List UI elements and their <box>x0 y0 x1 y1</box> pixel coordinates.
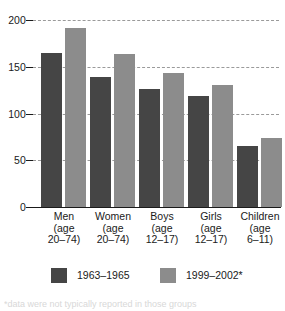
bar-children-1999-2002 <box>261 138 282 207</box>
bar-group-boys <box>139 20 185 207</box>
legend-label-1999-2002: 1999–2002* <box>186 270 243 281</box>
bar-group-girls <box>188 20 234 207</box>
category-label-children-line1: Children <box>229 211 285 223</box>
bar-group-children <box>237 20 283 207</box>
category-label-children-line3: 6–11) <box>229 234 285 246</box>
y-tick-label-200: 200 <box>0 15 26 26</box>
y-tick-label-150: 150 <box>0 62 26 73</box>
bar-girls-1999-2002 <box>212 85 233 208</box>
bar-group-women <box>90 20 136 207</box>
bar-boys-1999-2002 <box>163 73 184 207</box>
bar-boys-1963-1965 <box>139 89 160 207</box>
bar-women-1963-1965 <box>90 77 111 207</box>
legend-swatch-icon-1999-2002 <box>160 268 176 283</box>
bar-girls-1963-1965 <box>188 96 209 207</box>
y-tick-label-100: 100 <box>0 109 26 120</box>
y-tick-label-50: 50 <box>0 155 26 166</box>
legend-swatch-icon-1963-1965 <box>51 268 67 283</box>
bar-children-1963-1965 <box>237 146 258 207</box>
x-axis-baseline <box>33 207 281 208</box>
y-tick-mark-0 <box>26 207 33 208</box>
bar-chart: 200 150 100 50 0 <box>0 0 285 311</box>
y-tick-mark-200 <box>26 20 33 21</box>
bar-women-1999-2002 <box>114 54 135 207</box>
chart-legend: 1963–1965 1999–2002* <box>0 268 285 290</box>
legend-entry-1963-1965: 1963–1965 <box>51 268 130 283</box>
footnote-cropped: *data were not typically reported in tho… <box>4 299 282 311</box>
x-axis-category-labels: Men (age 20–74) Women (age 20–74) Boys (… <box>33 211 281 257</box>
y-axis: 200 150 100 50 0 <box>0 0 26 311</box>
legend-label-1963-1965: 1963–1965 <box>77 270 130 281</box>
y-tick-label-0: 0 <box>0 202 26 213</box>
bar-men-1963-1965 <box>41 53 62 207</box>
category-label-children: Children (age 6–11) <box>229 211 285 246</box>
y-tick-mark-50 <box>26 160 33 161</box>
bar-group-men <box>41 20 87 207</box>
plot-area <box>33 20 279 207</box>
legend-entry-1999-2002: 1999–2002* <box>160 268 243 283</box>
y-tick-mark-150 <box>26 67 33 68</box>
bar-men-1999-2002 <box>65 28 86 208</box>
y-tick-mark-100 <box>26 114 33 115</box>
